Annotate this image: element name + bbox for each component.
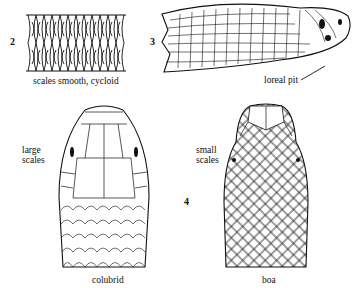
caption-boa: boa (262, 275, 276, 285)
caption-colubrid: colubrid (92, 275, 124, 285)
label-large-scales: large scales (22, 145, 45, 165)
label-small-scales-line-2: scales (196, 155, 219, 165)
label-small-scales: small scales (196, 145, 219, 165)
colubrid-head-illustration (55, 102, 153, 272)
label-small-scales-line-1: small (196, 145, 219, 155)
label-large-scales-line-1: large (22, 145, 45, 155)
label-large-scales-line-2: scales (22, 155, 45, 165)
panel-number-4: 4 (184, 196, 189, 207)
boa-head-illustration (220, 102, 312, 270)
label-loreal-pit: loreal pit (264, 75, 298, 85)
